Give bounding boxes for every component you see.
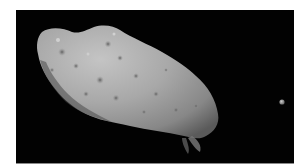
asteroid-body	[37, 26, 218, 139]
space-photo	[16, 10, 294, 164]
asteroid-illustration	[16, 10, 294, 163]
asteroid-moon	[279, 99, 284, 104]
